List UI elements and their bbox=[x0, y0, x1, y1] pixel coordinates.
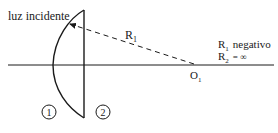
svg-text:2: 2 bbox=[101, 107, 106, 118]
center-point-label: O1 bbox=[190, 69, 202, 84]
svg-text:1: 1 bbox=[47, 107, 52, 118]
surface-1-marker: 1 bbox=[42, 105, 56, 119]
lens-curved-surface bbox=[53, 10, 84, 118]
incident-light-label: luz incidente bbox=[8, 9, 70, 23]
lens-diagram: luz incidente R1 R1negativo R2= ∞ O1 1 2 bbox=[0, 0, 278, 133]
r2-value-label: R2= ∞ bbox=[218, 50, 247, 65]
r1-sign-label: R1negativo bbox=[218, 38, 271, 53]
surface-2-marker: 2 bbox=[96, 105, 110, 119]
diagram-svg: luz incidente R1 R1negativo R2= ∞ O1 1 2 bbox=[0, 0, 278, 133]
radius-line-label: R1 bbox=[125, 28, 137, 44]
